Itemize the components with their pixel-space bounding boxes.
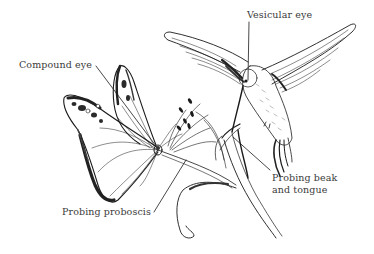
label-probing-beak-line2: and tongue bbox=[272, 184, 337, 196]
leader-probing-proboscis bbox=[154, 160, 186, 212]
hummingbird bbox=[164, 24, 355, 176]
label-vesicular-eye: Vesicular eye bbox=[247, 9, 312, 21]
label-probing-beak-line1: Probing beak bbox=[272, 172, 337, 184]
label-probing-beak: Probing beak and tongue bbox=[272, 172, 337, 196]
flower bbox=[158, 98, 282, 238]
butterfly bbox=[64, 66, 182, 202]
leader-vesicular-eye bbox=[248, 22, 249, 80]
diagram-canvas: Compound eye Vesicular eye Probing beak … bbox=[0, 0, 374, 254]
leader-probing-beak bbox=[233, 137, 270, 170]
label-probing-proboscis: Probing proboscis bbox=[62, 206, 151, 218]
label-compound-eye: Compound eye bbox=[19, 59, 92, 71]
leader-lines bbox=[96, 22, 270, 212]
leader-compound-eye bbox=[96, 66, 156, 146]
illustration bbox=[0, 0, 374, 254]
